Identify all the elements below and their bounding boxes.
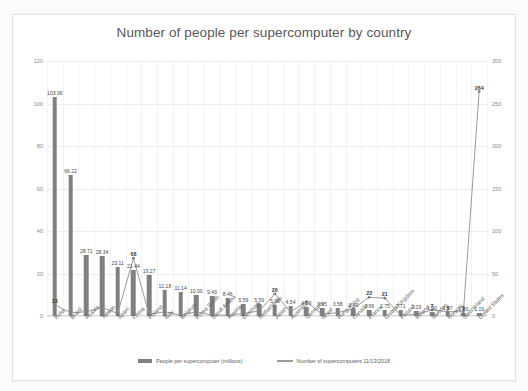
y-tick-left: 0	[40, 313, 43, 319]
line-value-label: 68	[130, 251, 136, 257]
bar-value-label: 28.34	[96, 249, 109, 255]
legend-bar-swatch-icon	[138, 359, 152, 363]
y-tick-right: 50	[492, 271, 498, 277]
line-value-label: 13	[52, 298, 58, 304]
y-tick-left: 80	[37, 143, 43, 149]
bar-value-label: 103.06	[47, 90, 63, 96]
bar-value-label: 21.44	[127, 263, 140, 269]
chart-title: Number of people per supercomputer by co…	[13, 25, 515, 40]
bar-value-label: 66.22	[64, 168, 77, 174]
vertical-gridline	[487, 61, 488, 316]
chart-page: Number of people per supercomputer by co…	[0, 0, 528, 391]
bar-value-label: 12.18	[158, 283, 171, 289]
x-axis-labels: IndiaBrazilRussiaTaiwanSpainChinaPolandI…	[47, 316, 487, 378]
y-tick-left: 100	[34, 101, 43, 107]
y-tick-left: 40	[37, 228, 43, 234]
legend-item-bars: People per supercomputer (millions)	[138, 358, 243, 364]
chart-legend: People per supercomputer (millions) Numb…	[13, 358, 515, 364]
y-tick-right: 250	[492, 101, 501, 107]
y-tick-left: 120	[34, 58, 43, 64]
data-labels: 103.0666.2228.7128.3423.1121.4419.2712.1…	[47, 61, 487, 316]
plot-area: 103.0666.2228.7128.3423.1121.4419.2712.1…	[47, 61, 487, 316]
line-value-label: 7	[431, 303, 434, 309]
bar-value-label: 4.54	[286, 299, 296, 305]
y-tick-left: 20	[37, 271, 43, 277]
y-tick-right: 100	[492, 228, 501, 234]
bar-value-label: 3.58	[333, 301, 343, 307]
bar-value-label: 10.00	[190, 288, 203, 294]
line-value-label: 22	[366, 290, 372, 296]
chart-plate: Number of people per supercomputer by co…	[12, 14, 516, 381]
bar-value-label: 5.59	[238, 297, 248, 303]
y-tick-left: 60	[37, 186, 43, 192]
y-tick-right: 150	[492, 186, 501, 192]
legend-bars-label: People per supercomputer (millions)	[156, 358, 243, 364]
line-value-label: 21	[382, 291, 388, 297]
bar-value-label: 23.11	[112, 260, 124, 266]
legend-line-label: Number of supercomputers 11/13/2018	[297, 358, 390, 364]
legend-item-line: Number of supercomputers 11/13/2018	[277, 358, 390, 364]
y-tick-right: 200	[492, 143, 501, 149]
legend-line-swatch-icon	[277, 360, 293, 362]
bar-value-label: 11.14	[174, 285, 186, 291]
y-tick-right: 0	[492, 313, 495, 319]
line-value-label: 26	[272, 287, 278, 293]
y-tick-right: 300	[492, 58, 501, 64]
line-value-label: 264	[475, 85, 484, 91]
bar-value-label: 19.27	[143, 268, 156, 274]
bar-value-label: 28.71	[80, 248, 93, 254]
